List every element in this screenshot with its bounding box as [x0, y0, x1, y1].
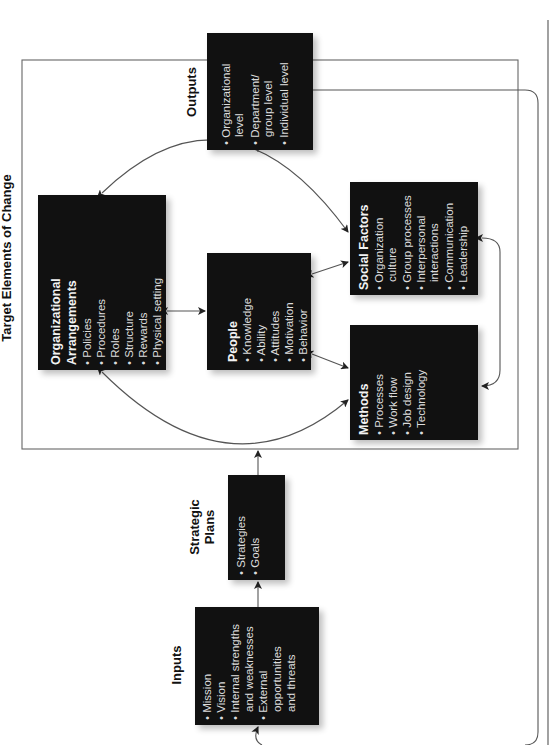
svg-text:• Vision: • Vision: [215, 682, 227, 720]
outputs-label: Outputs: [184, 67, 199, 117]
svg-text:and weaknesses: and weaknesses: [243, 626, 255, 712]
svg-text:• Knowledge: • Knowledge: [241, 298, 253, 362]
methods-title: Methods: [357, 384, 371, 435]
org-arrangements-title: Organizational: [49, 278, 63, 365]
people-methods-arrow: [312, 354, 348, 368]
svg-text:• Work flow: • Work flow: [387, 377, 399, 435]
strategic-plans-label-2: Plans: [202, 510, 217, 545]
social-methods-arrow: [482, 238, 500, 386]
svg-text:• Job design: • Job design: [401, 372, 413, 435]
org-methods-arrow: [102, 372, 348, 444]
svg-text:• Technology: • Technology: [415, 370, 427, 435]
svg-text:• Ability: • Ability: [255, 324, 267, 362]
svg-text:• Department/: • Department/: [249, 74, 261, 145]
svg-text:• Communication: • Communication: [443, 203, 455, 290]
svg-text:• Physical setting: • Physical setting: [151, 278, 163, 365]
change-model-diagram: Target Elements of Change Outputs • Orga…: [0, 0, 552, 745]
svg-text:• Roles: • Roles: [109, 328, 121, 365]
svg-text:• Strategies: • Strategies: [235, 516, 247, 575]
svg-text:• Organization: • Organization: [373, 218, 385, 290]
svg-text:• Motivation: • Motivation: [283, 302, 295, 362]
svg-text:opportunities: opportunities: [271, 646, 283, 712]
outputs-items: • Organizational level • Department/ gro…: [220, 62, 290, 145]
svg-text:• Leadership: • Leadership: [457, 226, 469, 290]
svg-text:• Individual level: • Individual level: [278, 62, 290, 145]
svg-text:• Goals: • Goals: [249, 537, 261, 575]
svg-text:• Internal strengths: • Internal strengths: [229, 624, 241, 720]
org-arrangements-title-2: Arrangements: [65, 280, 79, 365]
svg-text:culture: culture: [386, 247, 398, 282]
svg-text:• Mission: • Mission: [201, 674, 213, 720]
frame-title: Target Elements of Change: [0, 174, 14, 341]
svg-text:• Behavior: • Behavior: [297, 309, 309, 362]
svg-text:• Interpersonal: • Interpersonal: [415, 216, 427, 290]
svg-text:• Procedures: • Procedures: [95, 299, 107, 365]
svg-text:• Policies: • Policies: [81, 318, 93, 365]
svg-text:• External: • External: [257, 671, 269, 720]
strategic-plans-label: Strategic: [187, 499, 202, 555]
people-social-arrow: [312, 262, 348, 274]
svg-text:• Organizational: • Organizational: [220, 64, 232, 145]
svg-text:group level: group level: [262, 81, 274, 137]
svg-text:• Attitudes: • Attitudes: [269, 310, 281, 362]
svg-text:and threats: and threats: [285, 654, 297, 712]
svg-text:• Rewards: • Rewards: [137, 312, 149, 365]
svg-text:• Group processes: • Group processes: [401, 195, 413, 290]
people-title: People: [226, 321, 240, 362]
input-arrow: [256, 727, 262, 745]
svg-text:• Structure: • Structure: [123, 311, 135, 365]
svg-text:level: level: [233, 113, 245, 137]
svg-text:• Processes: • Processes: [373, 374, 385, 435]
svg-text:interactions: interactions: [428, 223, 440, 282]
inputs-label: Inputs: [169, 646, 184, 685]
social-factors-title: Social Factors: [357, 205, 371, 290]
